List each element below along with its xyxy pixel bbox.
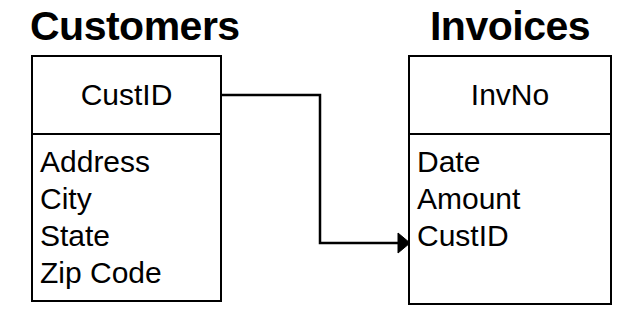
attribute-compartment-invoices: Date Amount CustID (410, 135, 610, 254)
attribute-row: Date (417, 143, 610, 180)
attribute-row: Address (40, 143, 220, 180)
entity-title-customers: Customers (30, 2, 240, 50)
entity-title-invoices: Invoices (408, 2, 612, 50)
entity-box-customers[interactable]: CustID Address City State Zip Code (31, 55, 222, 302)
attribute-row: Amount (417, 180, 610, 217)
er-diagram-canvas: Customers CustID Address City State Zip … (0, 0, 632, 322)
primary-key-compartment-customers: CustID (33, 57, 220, 135)
primary-key-label-custid: CustID (81, 78, 173, 112)
attribute-row-foreign-key-custid: CustID (417, 217, 610, 254)
primary-key-label-invno: InvNo (471, 78, 549, 112)
attribute-row: City (40, 180, 220, 217)
attribute-row: State (40, 217, 220, 254)
relationship-line (222, 95, 398, 243)
attribute-row: Zip Code (40, 254, 220, 291)
entity-box-invoices[interactable]: InvNo Date Amount CustID (408, 55, 612, 305)
primary-key-compartment-invoices: InvNo (410, 57, 610, 135)
attribute-compartment-customers: Address City State Zip Code (33, 135, 220, 291)
